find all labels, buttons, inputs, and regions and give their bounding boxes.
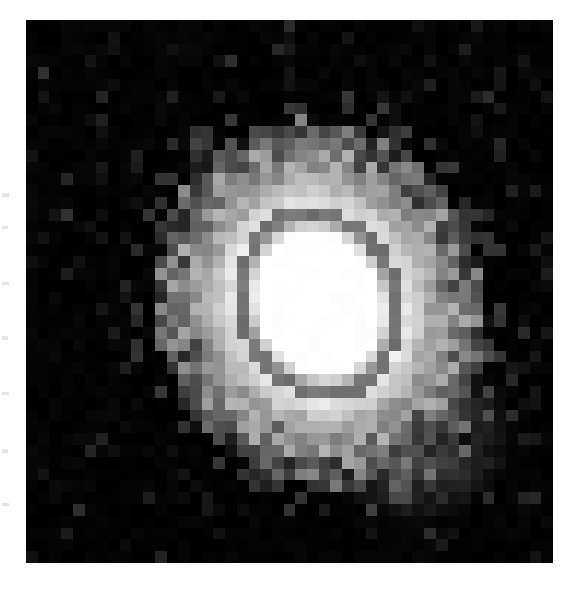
scan-tick-mark bbox=[2, 449, 8, 453]
scan-tick-mark bbox=[2, 503, 9, 506]
scan-tick-mark bbox=[2, 193, 9, 197]
scan-tick-mark bbox=[2, 392, 9, 395]
scan-tick-mark bbox=[2, 226, 8, 229]
astronomical-image-field bbox=[26, 20, 553, 563]
scan-tick-mark bbox=[2, 282, 9, 285]
figure-page bbox=[0, 0, 577, 591]
scan-tick-mark bbox=[2, 336, 8, 340]
pixel-intensity-canvas bbox=[26, 20, 553, 563]
